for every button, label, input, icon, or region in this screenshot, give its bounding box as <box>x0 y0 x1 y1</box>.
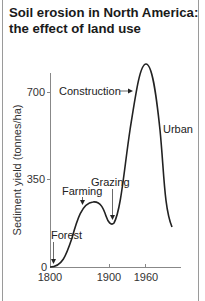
annotation-construction: Construction <box>59 85 121 97</box>
arrow-farming-head <box>80 200 85 205</box>
annotation-urban: Urban <box>163 123 193 135</box>
annotation-grazing: Grazing <box>91 176 130 188</box>
y-tick-label-350: 350 <box>27 173 45 185</box>
x-tick-label-1960: 1960 <box>134 271 158 283</box>
x-tick-label-1800: 1800 <box>38 271 62 283</box>
arrow-construction-head <box>128 89 133 94</box>
y-axis-label: Sediment yield (tonnes/ha) <box>11 105 23 236</box>
y-tick-label-700: 700 <box>27 86 45 98</box>
chart-plot: 700 350 0 1800 1900 1960 Sediment yield … <box>0 0 205 301</box>
arrow-grazing-head <box>110 215 115 220</box>
x-tick-label-1900: 1900 <box>97 271 121 283</box>
annotation-forest: Forest <box>51 229 82 241</box>
arrow-forest-head <box>51 259 56 264</box>
